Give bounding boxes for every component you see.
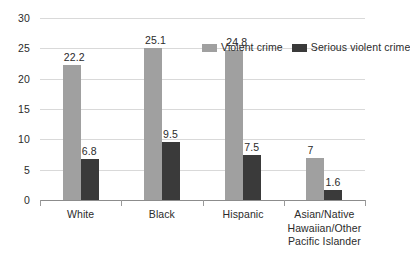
x-axis-category-label-line: Hispanic <box>203 208 284 222</box>
bar-value-label: 7.5 <box>244 142 259 153</box>
x-axis-category-label-line: White <box>40 208 121 222</box>
category-tick <box>40 200 41 206</box>
y-axis-tick-label: 5 <box>0 165 30 175</box>
legend-swatch-icon <box>292 44 307 52</box>
x-axis-category-label: Asian/NativeHawaiian/OtherPacific Island… <box>284 208 365 249</box>
bar-group: 22.26.8 <box>63 18 99 200</box>
y-axis: 302520151050 <box>0 0 30 265</box>
y-axis-tick-label: 0 <box>0 195 30 205</box>
bar-serious-violent-crime[interactable] <box>324 190 342 200</box>
x-axis: WhiteBlackHispanicAsian/NativeHawaiian/O… <box>40 208 365 265</box>
legend-label: Violent crime <box>221 42 283 53</box>
bar-value-label: 9.5 <box>163 129 178 140</box>
chart-legend: Violent crimeSerious violent crime <box>202 42 410 53</box>
category-tick <box>284 200 285 206</box>
x-axis-category-label: White <box>40 208 121 222</box>
y-axis-tick-label: 15 <box>0 104 30 114</box>
legend-label: Serious violent crime <box>311 42 410 53</box>
bar-violent-crime[interactable] <box>63 65 81 200</box>
x-axis-category-label: Black <box>121 208 202 222</box>
x-axis-category-label-line: Black <box>121 208 202 222</box>
x-axis-category-label-line: Pacific Islander <box>284 235 365 249</box>
bar-violent-crime[interactable] <box>225 50 243 200</box>
x-axis-category-label-line: Hawaiian/Other <box>284 222 365 236</box>
x-axis-category-label-line: Asian/Native <box>284 208 365 222</box>
bar-violent-crime[interactable] <box>306 158 324 200</box>
x-axis-category-label: Hispanic <box>203 208 284 222</box>
bar-serious-violent-crime[interactable] <box>162 142 180 200</box>
y-axis-tick-label: 10 <box>0 134 30 144</box>
bar-value-label: 7 <box>307 145 313 156</box>
y-axis-tick-label: 20 <box>0 74 30 84</box>
bar-group: 25.19.5 <box>144 18 180 200</box>
legend-item-violent-crime[interactable]: Violent crime <box>202 42 283 53</box>
category-tick <box>203 200 204 206</box>
bar-value-label: 6.8 <box>82 146 97 157</box>
bar-serious-violent-crime[interactable] <box>243 155 261 201</box>
bar-value-label: 25.1 <box>145 35 166 46</box>
y-axis-tick-label: 25 <box>0 43 30 53</box>
y-axis-tick-label: 30 <box>0 13 30 23</box>
category-tick <box>365 200 366 206</box>
category-tick <box>121 200 122 206</box>
legend-item-serious-violent-crime[interactable]: Serious violent crime <box>292 42 410 53</box>
bar-value-label: 1.6 <box>325 177 340 188</box>
bar-serious-violent-crime[interactable] <box>81 159 99 200</box>
bar-value-label: 22.2 <box>64 52 85 63</box>
plot-area: 22.26.825.19.524.87.571.6 Violent crimeS… <box>40 18 365 200</box>
legend-swatch-icon <box>202 44 217 52</box>
bar-violent-crime[interactable] <box>144 48 162 200</box>
